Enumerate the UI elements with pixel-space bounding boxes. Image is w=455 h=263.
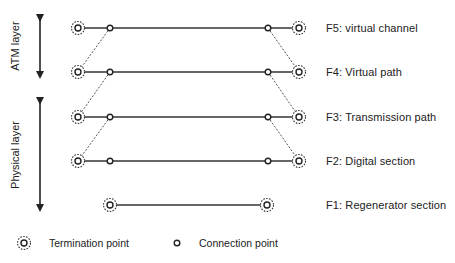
termination-point-icon — [293, 66, 306, 79]
level-label-f2: F2: Digital section — [326, 155, 415, 167]
dashed-link-f3-f2-left — [78, 117, 110, 161]
dashed-links — [78, 28, 299, 161]
connection-point-icon — [265, 25, 271, 31]
level-label-f1: F1: Regenerator section — [326, 199, 446, 211]
connection-point-icon — [265, 114, 271, 120]
termination-point-icon — [72, 155, 85, 168]
connection-point-icon — [265, 69, 271, 75]
layer-label-atm: ATM layer — [9, 21, 21, 70]
dashed-link-f4-f3-left — [78, 72, 110, 117]
termination-point-icon — [293, 22, 306, 35]
level-label-f4: F4: Virtual path — [326, 66, 402, 78]
dashed-link-f3-f2-right — [268, 117, 299, 161]
termination-point-icon — [104, 199, 117, 212]
layer-label-physical: Physical layer — [9, 121, 21, 189]
level-label-f3: F3: Transmission path — [326, 111, 436, 123]
legend-termination-point-icon — [18, 237, 31, 250]
termination-point-icon — [293, 155, 306, 168]
connection-point-icon — [107, 114, 113, 120]
oam-flow-levels-diagram — [0, 0, 455, 263]
level-label-f5: F5: virtual channel — [326, 22, 418, 34]
legend-connection-point-label: Connection point — [199, 237, 278, 249]
legend-connection-point-icon — [174, 240, 180, 246]
termination-point-icon — [72, 22, 85, 35]
connection-point-icon — [265, 158, 271, 164]
connection-point-icon — [107, 69, 113, 75]
termination-point-icon — [72, 66, 85, 79]
dashed-link-f5-f4-left — [78, 28, 110, 72]
termination-point-icon — [72, 111, 85, 124]
termination-point-icon — [293, 111, 306, 124]
dashed-link-f4-f3-right — [268, 72, 299, 117]
connection-point-icon — [107, 158, 113, 164]
legend-termination-point-label: Termination point — [49, 237, 129, 249]
termination-point-icon — [261, 199, 274, 212]
dashed-link-f5-f4-right — [268, 28, 299, 72]
connection-point-icon — [107, 25, 113, 31]
